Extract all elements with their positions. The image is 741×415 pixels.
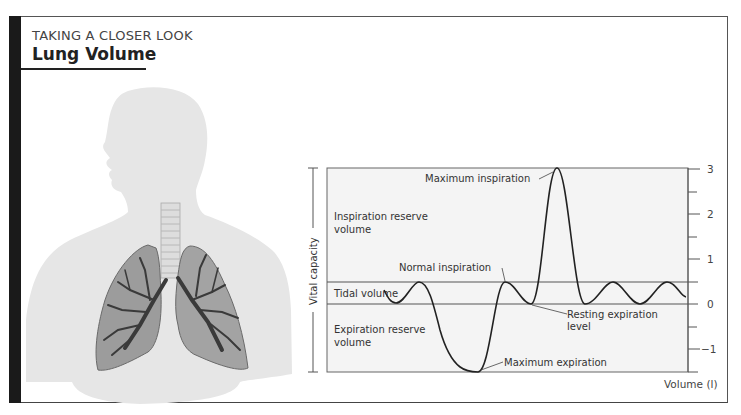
- max-expiration-label: Maximum expiration: [504, 357, 607, 368]
- trachea: [161, 203, 180, 278]
- tick-label-3: 3: [707, 163, 714, 175]
- vital-capacity-label: Vital capacity: [308, 237, 319, 305]
- lungs-illustration-icon: [26, 87, 292, 404]
- normal-inspiration-label: Normal inspiration: [399, 262, 491, 273]
- tick-label-minus-1: −1: [701, 343, 716, 355]
- human-silhouette: [26, 87, 292, 404]
- tick-label-0: 0: [707, 298, 714, 310]
- tick-label-2: 2: [707, 208, 714, 220]
- axis-ticks: [688, 169, 700, 372]
- axis-label: Volume (l): [664, 378, 718, 390]
- tick-label-1: 1: [707, 253, 714, 265]
- chart-plot-area: [327, 168, 688, 372]
- lung-volume-chart: 3 2 1 0 −1 Volume (l) Vital capacity Ins…: [308, 163, 718, 390]
- figure-canvas: 3 2 1 0 −1 Volume (l) Vital capacity Ins…: [0, 0, 741, 415]
- max-inspiration-label: Maximum inspiration: [425, 173, 530, 184]
